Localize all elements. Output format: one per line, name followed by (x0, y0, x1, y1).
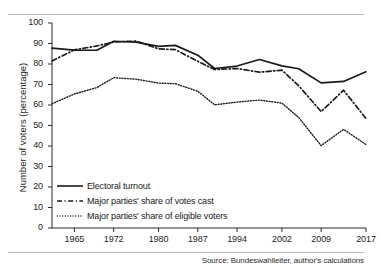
legend-label-eligible-voters: Major parties' share of eligible voters (87, 211, 227, 221)
legend-swatch-solid-icon (57, 181, 83, 191)
legend-item-eligible-voters: Major parties' share of eligible voters (57, 208, 272, 223)
y-tick-label: 100 (21, 17, 43, 27)
series-layer (52, 41, 366, 146)
y-tick-label: 0 (21, 222, 43, 232)
x-tick-label: 1972 (97, 234, 131, 244)
legend-item-electoral-turnout: Electoral turnout (57, 178, 272, 193)
x-tick-label: 2009 (304, 234, 338, 244)
legend-label-electoral-turnout: Electoral turnout (87, 181, 150, 191)
x-tick-label: 1965 (57, 234, 91, 244)
x-tick-label: 1994 (220, 234, 254, 244)
x-tick-label: 1987 (181, 234, 215, 244)
source-note: Source: Bundeswahlleiter, author's calcu… (202, 256, 364, 265)
x-tick-label: 2017 (349, 234, 381, 244)
series-line (52, 41, 366, 118)
legend-label-votes-cast: Major parties' share of votes cast (87, 196, 214, 206)
series-line (52, 78, 366, 146)
x-tick-label: 2002 (265, 234, 299, 244)
legend-swatch-dotted-icon (57, 211, 83, 221)
chart-legend: Electoral turnout Major parties' share o… (57, 178, 272, 223)
legend-swatch-dashed-icon (57, 196, 83, 206)
x-tick-label: 1980 (142, 234, 176, 244)
series-line (52, 41, 366, 83)
bottom-divider-rule (8, 252, 364, 253)
y-axis-title: Number of voters (percentage) (17, 38, 28, 218)
legend-item-votes-cast: Major parties' share of votes cast (57, 193, 272, 208)
